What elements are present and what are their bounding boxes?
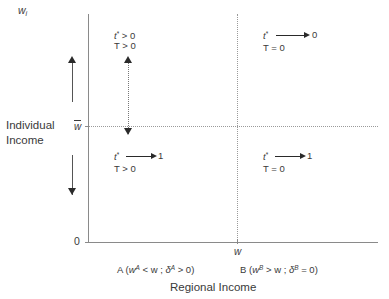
y-axis-title-line2: Income (6, 133, 44, 147)
vertical-axis-line (88, 14, 89, 243)
quadrant-top-right-arrow-head-icon (304, 32, 310, 38)
quadrant-bottom-right-line1-target: 1 (307, 150, 312, 162)
x-axis-w-tick-mark (237, 239, 238, 244)
region-label-a: A (wA < w ; δA > 0) (117, 262, 194, 276)
y-axis-variable-label: wi (18, 4, 27, 20)
quadrant-bottom-right-line2: T = 0 (263, 163, 285, 175)
horizontal-axis-line (88, 242, 378, 243)
x-axis-w-tick-label: w (234, 246, 241, 258)
region-label-b: B (wB > w ; δB = 0) (240, 262, 318, 276)
wbar-dotted-horizontal-line (88, 126, 378, 127)
quadrant-top-right-line1-target: 0 (312, 29, 317, 41)
w-dotted-vertical-line (237, 14, 238, 242)
y-axis-title-line1: Individual (6, 118, 55, 132)
quadrant-top-right-line2: T = 0 (263, 42, 285, 54)
income-increase-arrow-shaft (72, 62, 73, 102)
wbar-crossing-arrow-head-up-icon (124, 56, 132, 63)
economics-quadrant-diagram: wi Individual Income w 0 w Regional Inco… (0, 0, 389, 299)
quadrant-bottom-right-arrow-head-icon (300, 153, 306, 159)
income-decrease-arrow-head-down-icon (68, 188, 76, 195)
x-axis-title: Regional Income (170, 280, 256, 294)
quadrant-bottom-right-line1-variable: t* (263, 149, 268, 163)
quadrant-bottom-left-arrow-head-icon (151, 153, 157, 159)
origin-tick-mark (85, 242, 89, 243)
quadrant-top-left-line2: T > 0 (114, 40, 136, 52)
origin-label: 0 (74, 235, 80, 247)
y-axis-wbar-tick-label: w (74, 120, 81, 133)
y-axis-wbar-tick-mark (85, 126, 89, 127)
wbar-crossing-double-arrow-shaft (128, 62, 129, 134)
quadrant-top-right-line1-variable: t* (263, 28, 268, 42)
quadrant-bottom-right-arrow-shaft (275, 156, 301, 157)
income-increase-arrow-head-up-icon (68, 56, 76, 63)
quadrant-top-right-arrow-shaft (276, 35, 305, 36)
quadrant-bottom-left-arrow-shaft (126, 156, 152, 157)
wbar-crossing-arrow-head-down-icon (124, 128, 132, 135)
quadrant-bottom-left-line1-target: 1 (158, 150, 163, 162)
quadrant-bottom-left-line2: T > 0 (114, 163, 136, 175)
quadrant-bottom-left-line1-variable: t* (114, 149, 119, 163)
